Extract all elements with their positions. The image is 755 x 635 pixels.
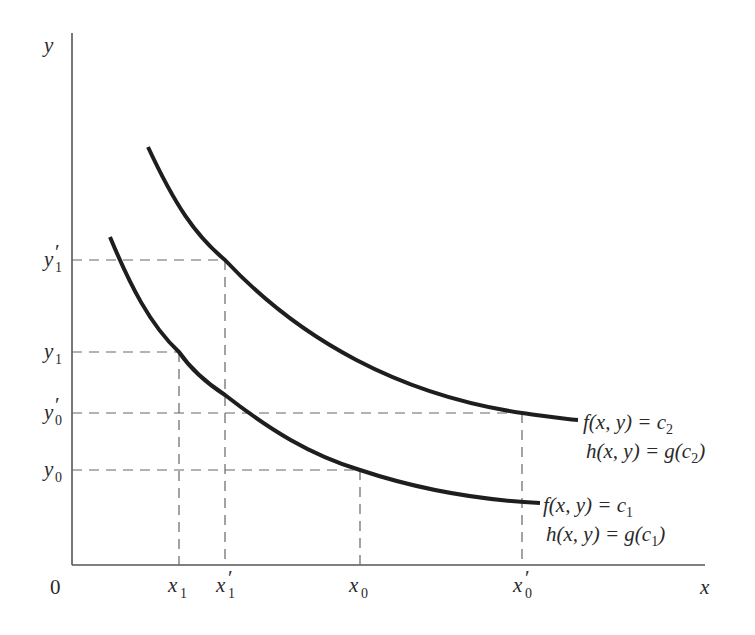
svg-text:0: 0 [55, 413, 62, 428]
svg-text:f(x, y) = c2: f(x, y) = c2 [583, 410, 673, 437]
origin-label: 0 [50, 575, 61, 599]
y-tick-y1: y 1 [42, 339, 62, 367]
svg-text:1: 1 [55, 260, 62, 275]
y-tick-y1-prime: y ′ 1 [42, 240, 62, 275]
svg-text:x: x [215, 573, 226, 597]
svg-text:x: x [512, 573, 523, 597]
y-axis-label: y [42, 33, 54, 57]
svg-text:0: 0 [361, 586, 368, 601]
upper-level-curve [148, 147, 578, 420]
lower-level-curve [110, 237, 540, 503]
svg-text:x: x [167, 573, 178, 597]
svg-text:h(x, y) = g(c1): h(x, y) = g(c1) [546, 522, 665, 549]
y-tick-y0-prime: y ′ 0 [42, 393, 62, 428]
level-curves-diagram: y 0 x y ′ 1 y 1 y ′ 0 y 0 x 1 x ′ 1 x 0 … [0, 0, 755, 635]
svg-text:0: 0 [525, 586, 532, 601]
svg-text:f(x, y) = c1: f(x, y) = c1 [543, 493, 633, 520]
svg-text:1: 1 [228, 586, 235, 601]
svg-text:1: 1 [55, 352, 62, 367]
x-axis-label: x [699, 575, 710, 599]
svg-text:0: 0 [55, 470, 62, 485]
svg-text:y: y [42, 457, 54, 481]
svg-text:1: 1 [180, 586, 187, 601]
y-tick-y0: y 0 [42, 457, 62, 485]
svg-text:y: y [42, 247, 54, 271]
lower-curve-label: f(x, y) = c1 h(x, y) = g(c1) [543, 493, 665, 549]
svg-text:x: x [348, 573, 359, 597]
x-tick-x0: x 0 [348, 573, 368, 601]
upper-curve-label: f(x, y) = c2 h(x, y) = g(c2) [583, 410, 705, 466]
x-tick-x1: x 1 [167, 573, 187, 601]
x-tick-x1-prime: x ′ 1 [215, 566, 235, 601]
svg-text:h(x, y) = g(c2): h(x, y) = g(c2) [586, 439, 705, 466]
svg-text:y: y [42, 339, 54, 363]
svg-text:y: y [42, 400, 54, 424]
x-tick-x0-prime: x ′ 0 [512, 566, 532, 601]
